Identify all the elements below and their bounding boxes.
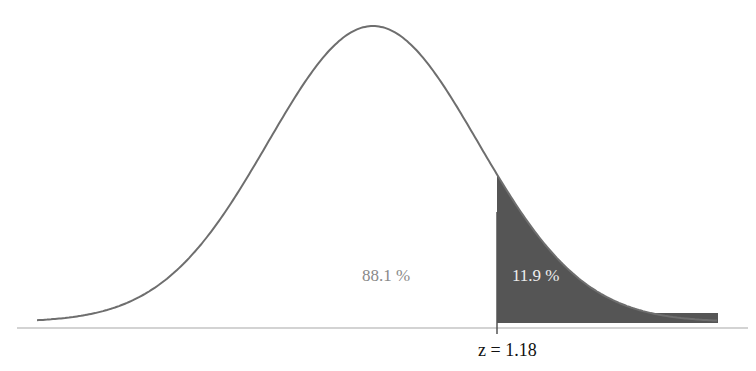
z-score-label: z = 1.18 — [478, 340, 537, 361]
left-area-percentage: 88.1 % — [362, 266, 410, 286]
right-tail-percentage: 11.9 % — [512, 266, 560, 286]
normal-distribution-chart — [0, 0, 756, 371]
shaded-right-tail — [497, 175, 718, 328]
